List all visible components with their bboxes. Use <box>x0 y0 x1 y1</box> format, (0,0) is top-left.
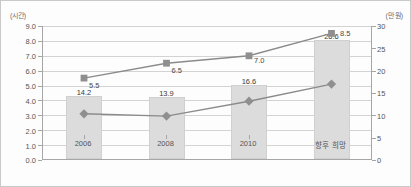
right-axis-tick-5: 5 <box>377 134 403 143</box>
diamond-marker-2010[interactable] <box>244 97 253 106</box>
left-axis-tick-1: 1.0 <box>10 142 36 151</box>
x-axis-label-2010: 2010 <box>211 139 285 148</box>
square-marker-2008[interactable] <box>163 60 170 67</box>
left-axis-tick-5: 5.0 <box>10 82 36 91</box>
left-axis-tick-6: 6.0 <box>10 67 36 76</box>
x-axis-label-2008: 2008 <box>129 139 203 148</box>
right-tick-mark <box>372 160 376 161</box>
left-tick-mark <box>38 160 42 161</box>
square-label-2010: 7.0 <box>254 56 264 65</box>
square-label-2008: 6.5 <box>172 66 182 75</box>
left-axis-tick-3: 3.0 <box>10 112 36 121</box>
right-axis-tick-25: 25 <box>377 45 403 54</box>
left-axis-tick-4: 4.0 <box>10 97 36 106</box>
square-label-2006: 5.5 <box>89 81 99 90</box>
square-marker-future[interactable] <box>328 30 335 37</box>
diamond-marker-2006[interactable] <box>79 109 88 118</box>
right-axis-unit-label: (만 원) <box>385 10 403 20</box>
right-axis-tick-0: 0 <box>377 156 403 165</box>
left-axis-tick-7: 7.0 <box>10 52 36 61</box>
left-axis-tick-9: 9.0 <box>10 22 36 31</box>
right-axis-tick-15: 15 <box>377 89 403 98</box>
left-axis-tick-0: 0.0 <box>10 156 36 165</box>
x-axis-label-2006: 2006 <box>46 139 120 148</box>
square-label-future: 8.5 <box>340 29 350 38</box>
diamond-marker-future[interactable] <box>327 80 336 89</box>
diamond-series-line <box>84 84 332 116</box>
square-marker-2010[interactable] <box>246 52 253 59</box>
diamond-marker-2008[interactable] <box>162 112 171 121</box>
left-axis-tick-8: 8.0 <box>10 37 36 46</box>
left-axis-unit-label: (시간) <box>10 10 26 20</box>
right-axis-tick-20: 20 <box>377 67 403 76</box>
square-series-line <box>84 33 332 78</box>
x-axis-label-future: 향후 희망 <box>294 139 368 150</box>
right-axis-tick-30: 30 <box>377 22 403 31</box>
square-marker-2006[interactable] <box>81 75 88 82</box>
chart-container: (시간) (만 원) 9.0 8.0 7.0 6.0 5.0 4.0 3.0 2… <box>0 0 411 187</box>
right-axis-tick-10: 10 <box>377 112 403 121</box>
left-axis-tick-2: 2.0 <box>10 127 36 136</box>
